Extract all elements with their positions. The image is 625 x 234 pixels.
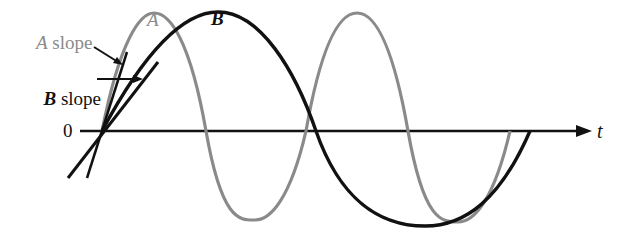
curve-a xyxy=(102,13,510,222)
origin-label: 0 xyxy=(63,121,73,140)
curve-a-label: A xyxy=(147,10,159,29)
axis-arrow-icon xyxy=(576,125,592,137)
a-slope-pointer xyxy=(94,47,118,62)
wave-diagram xyxy=(0,0,625,234)
b-slope-italic: B xyxy=(44,88,57,109)
b-slope-text: slope xyxy=(56,88,101,109)
curve-b-label: B xyxy=(211,9,224,28)
b-slope-label: B slope xyxy=(34,70,101,108)
a-slope-text: slope xyxy=(48,32,93,53)
curve-b xyxy=(102,12,530,226)
a-slope-italic: A xyxy=(36,32,48,53)
time-axis-label: t xyxy=(597,121,603,141)
a-slope-label: A slope xyxy=(36,33,92,52)
